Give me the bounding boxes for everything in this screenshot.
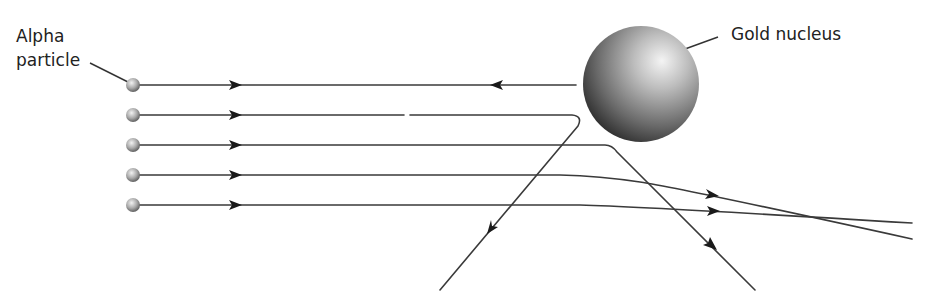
alpha-particle-label: Alpha <box>16 26 64 46</box>
alpha-particle-leader-line <box>90 63 128 82</box>
trajectory-1 <box>133 80 576 90</box>
alpha-particle-4 <box>126 168 140 182</box>
gold-nucleus <box>583 26 699 142</box>
trajectory-5 <box>133 200 912 223</box>
alpha-particle-3 <box>126 138 140 152</box>
alpha-particle-label-line2: particle <box>16 50 80 70</box>
alpha-particle-2 <box>126 108 140 122</box>
alpha-particle-5 <box>126 198 140 212</box>
alpha-particle-1 <box>126 78 140 92</box>
arrow-down-right-icon <box>703 237 717 250</box>
trajectory-3 <box>133 140 755 290</box>
gold-nucleus-label: Gold nucleus <box>731 24 841 44</box>
trajectory-2 <box>133 110 580 290</box>
scattering-diagram: Alpha particle Gold nucleus <box>0 0 928 303</box>
